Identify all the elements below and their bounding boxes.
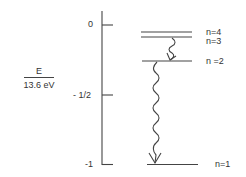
- diagram-graphics: [0, 0, 246, 177]
- transition-2-to-1-wave: [153, 62, 159, 163]
- arrow-head-icon: [167, 53, 176, 60]
